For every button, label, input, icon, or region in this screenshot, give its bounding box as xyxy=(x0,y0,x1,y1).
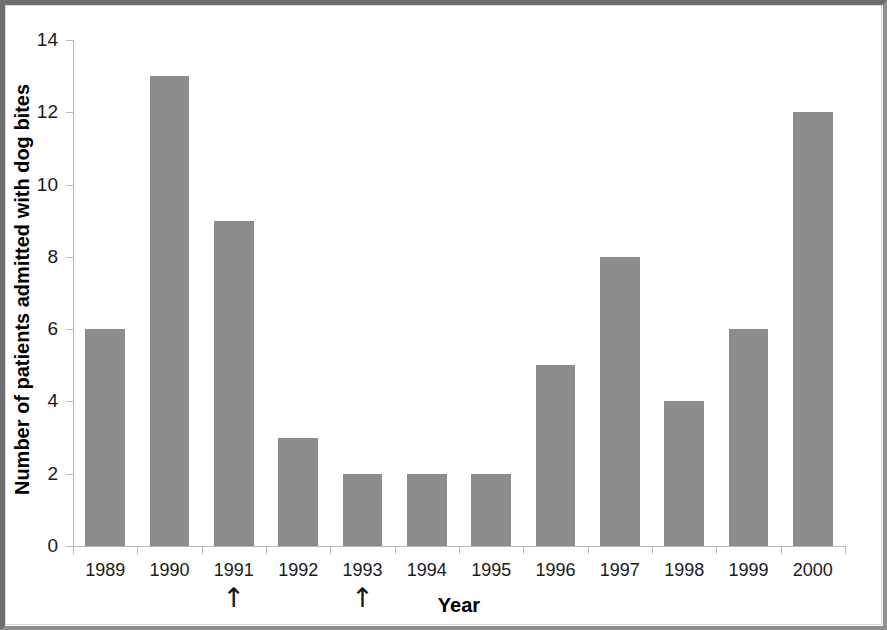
x-axis-tick xyxy=(652,546,653,554)
x-axis-label-1992: 1992 xyxy=(266,561,330,579)
x-axis-tick xyxy=(395,546,396,554)
bar-1991 xyxy=(214,221,254,546)
y-axis-tick-label: 8 xyxy=(14,247,58,266)
bar-1996 xyxy=(536,365,576,546)
y-axis-tick-label: 2 xyxy=(14,464,58,483)
bar-chart-figure: Number of patients admitted with dog bit… xyxy=(0,0,887,630)
x-axis-title: Year xyxy=(73,594,845,617)
x-axis-label-1993: 1993 xyxy=(330,561,394,579)
x-axis-tick xyxy=(523,546,524,554)
x-axis-tick xyxy=(588,546,589,554)
x-axis-tick xyxy=(137,546,138,554)
y-axis-tick-label: 10 xyxy=(14,175,58,194)
bar-1990 xyxy=(150,76,190,546)
x-axis-tick xyxy=(781,546,782,554)
x-axis-tick xyxy=(330,546,331,554)
x-axis-tick xyxy=(716,546,717,554)
x-axis-label-1991: 1991 xyxy=(202,561,266,579)
bar-1999 xyxy=(729,329,769,546)
x-axis-label-1998: 1998 xyxy=(652,561,716,579)
x-axis-label-1996: 1996 xyxy=(523,561,587,579)
x-axis-label-1997: 1997 xyxy=(588,561,652,579)
x-axis-tick xyxy=(73,546,74,554)
x-axis-label-1990: 1990 xyxy=(137,561,201,579)
y-axis-tick-label: 4 xyxy=(14,391,58,410)
y-axis-title: Number of patients admitted with dog bit… xyxy=(11,10,34,570)
bar-1993 xyxy=(343,474,383,546)
x-axis-tick xyxy=(459,546,460,554)
bar-1992 xyxy=(278,438,318,546)
bar-1998 xyxy=(664,401,704,546)
x-axis-label-1995: 1995 xyxy=(459,561,523,579)
y-axis-tick-label: 12 xyxy=(14,102,58,121)
plot-area xyxy=(73,40,845,546)
bar-1997 xyxy=(600,257,640,546)
x-axis-label-1994: 1994 xyxy=(395,561,459,579)
x-axis-tick xyxy=(845,546,846,554)
x-axis-label-1989: 1989 xyxy=(73,561,137,579)
x-axis-tick xyxy=(266,546,267,554)
bar-2000 xyxy=(793,112,833,546)
y-axis-tick-label: 14 xyxy=(14,30,58,49)
x-axis-tick xyxy=(202,546,203,554)
y-axis-tick-label: 6 xyxy=(14,319,58,338)
x-axis-label-1999: 1999 xyxy=(716,561,780,579)
bar-1989 xyxy=(85,329,125,546)
y-axis-tick-label: 0 xyxy=(14,536,58,555)
bar-1994 xyxy=(407,474,447,546)
bar-1995 xyxy=(471,474,511,546)
x-axis-label-2000: 2000 xyxy=(781,561,845,579)
